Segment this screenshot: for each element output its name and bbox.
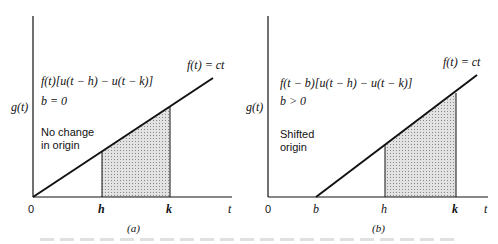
- note-a-line2: in origin: [41, 139, 80, 151]
- figure-caption-cutoff: [40, 238, 460, 241]
- tick-h-b: h: [381, 203, 387, 215]
- tick-k-a: k: [166, 203, 172, 215]
- shaded-region-b: [385, 93, 456, 197]
- note-a-line1: No change: [41, 126, 94, 138]
- line-label-a: f(t) = ct: [187, 59, 224, 71]
- tick-t-b: t: [484, 203, 487, 215]
- tick-origin-b: 0: [265, 203, 271, 215]
- shaded-region-a: [102, 107, 170, 197]
- tick-origin-a: 0: [28, 203, 34, 215]
- tick-b-b: b: [313, 203, 319, 215]
- note-b-line1: Shifted: [280, 128, 314, 140]
- note-b-line2: origin: [280, 141, 307, 153]
- ylabel-b: g(t): [246, 101, 263, 113]
- ylabel-a: g(t): [11, 101, 28, 113]
- diagram-canvas: [0, 0, 498, 244]
- line-label-b: f(t) = ct: [443, 56, 480, 68]
- expression-b: f(t − b)[u(t − h) − u(t − k)]: [280, 77, 412, 89]
- param-a: b = 0: [41, 95, 67, 107]
- expression-a: f(t)[u(t − h) − u(t − k)]: [41, 75, 153, 87]
- tick-k-b: k: [452, 203, 458, 215]
- tick-t-a: t: [228, 203, 231, 215]
- caption-b: (b): [372, 222, 385, 234]
- tick-h-a: h: [98, 203, 105, 215]
- param-b: b > 0: [280, 95, 306, 107]
- caption-a: (a): [127, 222, 140, 234]
